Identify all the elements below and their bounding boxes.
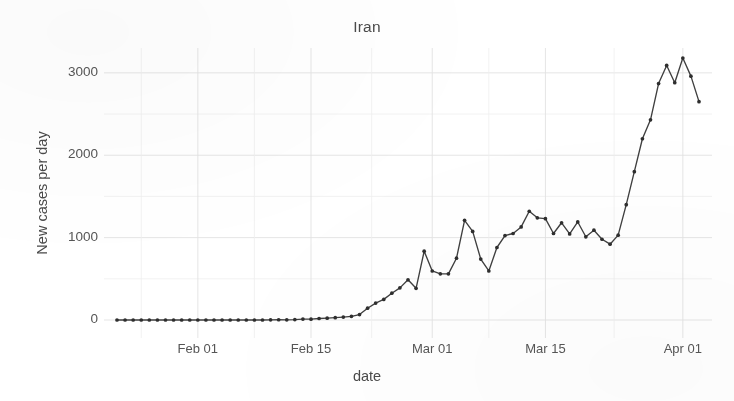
y-tick-label: 0 — [36, 311, 98, 326]
y-tick-label: 3000 — [36, 64, 98, 79]
chart-figure: Iran New cases per day 0100020003000 Feb… — [0, 0, 734, 401]
x-tick-label: Apr 01 — [638, 341, 728, 356]
x-axis-tick-labels: Feb 01Feb 15Mar 01Mar 15Apr 01 — [0, 341, 734, 361]
x-tick-label: Feb 15 — [266, 341, 356, 356]
x-axis-title: date — [0, 368, 734, 384]
grid-vertical-lines — [141, 48, 683, 338]
y-tick-label: 2000 — [36, 146, 98, 161]
chart-title: Iran — [0, 17, 734, 37]
y-tick-label: 1000 — [36, 229, 98, 244]
plot-area — [104, 48, 712, 338]
grid-minor-lines — [104, 114, 712, 279]
series-points — [115, 56, 701, 322]
x-tick-label: Mar 01 — [387, 341, 477, 356]
x-tick-label: Mar 15 — [500, 341, 590, 356]
x-tick-label: Feb 01 — [153, 341, 243, 356]
plot-panel — [104, 48, 712, 338]
